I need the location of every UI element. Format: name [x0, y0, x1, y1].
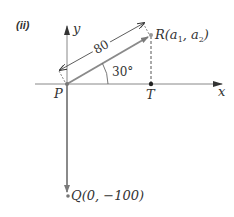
dimension-tick-p	[59, 71, 65, 82]
point-r	[149, 33, 153, 37]
point-p	[65, 82, 69, 86]
point-t	[149, 82, 153, 86]
vector-diagram: (ii) x y 80 30° P T R(a1, a2) Q(0, −100)	[0, 0, 234, 217]
point-q	[66, 194, 70, 198]
point-q-label: Q(0, −100)	[71, 188, 144, 203]
point-r-label: R(a1, a2)	[154, 27, 209, 44]
part-label: (ii)	[16, 19, 30, 31]
angle-label: 30°	[112, 65, 133, 79]
x-axis-label: x	[218, 84, 226, 99]
dimension-tick-r	[143, 23, 149, 34]
point-p-label: P	[53, 86, 63, 101]
angle-arc	[103, 64, 109, 85]
point-t-label: T	[146, 87, 156, 102]
y-axis-label: y	[72, 21, 81, 36]
